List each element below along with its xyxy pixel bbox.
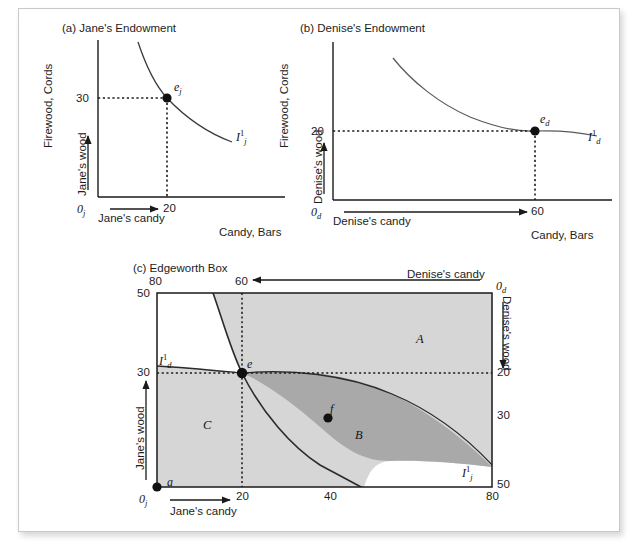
box-denise-wood-label: Denise's wood — [501, 296, 513, 370]
panel-b-caption: (b) Denise's Endowment — [300, 22, 425, 34]
panel-b-x-axis-label: Candy, Bars — [531, 229, 593, 241]
panel-b-point-label: ed — [540, 112, 550, 128]
box-region-c-label: C — [203, 418, 211, 433]
panel-b-endowment-point — [530, 126, 539, 135]
box-point-e — [237, 368, 247, 378]
panel-a-graph — [88, 40, 285, 209]
box-region-b-label: B — [355, 428, 363, 443]
box-right-tick-50: 50 — [497, 478, 510, 490]
box-denise-curve-label: I1d — [159, 352, 172, 370]
box-jane-origin-label: 0j — [139, 492, 147, 508]
box-bottom-tick-80: 80 — [486, 490, 499, 502]
panel-c-caption: (c) Edgeworth Box — [133, 262, 228, 274]
panel-a-caption: (a) Jane's Endowment — [62, 22, 176, 34]
panel-b-indifference-curve — [393, 58, 597, 136]
box-bottom-tick-40: 40 — [324, 490, 337, 502]
panel-a-curve-label: I1j — [236, 128, 247, 146]
panel-b-curve-label: I1d — [588, 128, 601, 146]
panel-b-origin-label: 0d — [311, 205, 321, 221]
panel-c-edgeworth-box — [146, 280, 503, 500]
box-top-tick-80: 80 — [149, 275, 162, 287]
box-point-e-label: e — [247, 357, 252, 372]
panel-b-graph — [324, 42, 612, 212]
figure-canvas — [0, 0, 638, 546]
box-point-a — [152, 482, 161, 491]
panel-a-x-tick-20: 20 — [163, 202, 176, 214]
box-region-a-label: A — [416, 332, 424, 347]
panel-a-y-axis-label: Firewood, Cords — [42, 64, 54, 148]
figure-frame: (a) Jane's Endowment Firewood, Cords Jan… — [0, 0, 638, 546]
box-point-a-label: a — [167, 475, 173, 490]
panel-a-inner-x-label: Jane's candy — [98, 212, 165, 224]
panel-a-endowment-point — [162, 93, 171, 102]
panel-a-inner-y-label: Jane's wood — [76, 132, 88, 196]
box-top-tick-60: 60 — [235, 275, 248, 287]
box-denise-origin-label: 0d — [496, 279, 506, 295]
box-jane-wood-label: Jane's wood — [134, 406, 146, 470]
panel-b-y-axis-label: Firewood, Cords — [278, 64, 290, 148]
box-jane-candy-label: Jane's candy — [170, 505, 237, 517]
box-denise-candy-label: Denise's candy — [407, 268, 485, 280]
panel-a-origin-label: 0j — [77, 202, 85, 218]
box-left-tick-50: 50 — [137, 287, 150, 299]
panel-a-y-tick-30: 30 — [76, 92, 89, 104]
box-right-tick-20: 20 — [497, 366, 510, 378]
box-right-tick-30: 30 — [497, 409, 510, 421]
panel-b-y-tick-20: 20 — [311, 125, 324, 137]
panel-a-point-label: ej — [174, 80, 182, 96]
panel-b-x-tick-60: 60 — [531, 205, 544, 217]
box-jane-curve-label: I1j — [462, 464, 473, 482]
box-point-f-label: f — [330, 402, 333, 417]
panel-b-inner-x-label: Denise's candy — [333, 215, 411, 227]
panel-a-x-axis-label: Candy, Bars — [219, 226, 281, 238]
panel-b-inner-y-label: Denise's wood — [312, 130, 324, 204]
box-bottom-tick-20: 20 — [236, 490, 249, 502]
panel-a-indifference-curve — [138, 42, 232, 142]
box-left-tick-30: 30 — [137, 366, 150, 378]
